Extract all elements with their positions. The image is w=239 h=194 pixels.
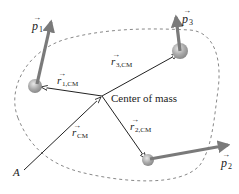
svg-text:p: p — [31, 19, 38, 33]
r-cm-label: → r CM — [72, 121, 89, 140]
diagram-canvas: Center of mass A → r CM → r 1,CM → r 3,C… — [0, 0, 239, 194]
r1-cm-vector — [41, 87, 102, 96]
p3-label: → p 3 — [181, 6, 193, 27]
svg-text:p: p — [181, 12, 188, 26]
svg-text:1,CM: 1,CM — [62, 80, 79, 88]
svg-text:CM: CM — [77, 132, 89, 140]
r1-cm-label: → r 1,CM — [57, 69, 79, 88]
p2-label: → p 2 — [220, 150, 232, 171]
center-of-mass-diagram: Center of mass A → r CM → r 1,CM → r 3,C… — [0, 0, 239, 194]
r3-cm-label: → r 3,CM — [111, 50, 133, 69]
svg-text:3,CM: 3,CM — [116, 61, 133, 69]
p1-label: → p 1 — [31, 13, 43, 34]
r2-cm-label: → r 2,CM — [130, 115, 152, 134]
svg-text:p: p — [220, 156, 227, 170]
svg-text:1: 1 — [39, 25, 43, 34]
svg-text:2: 2 — [228, 162, 232, 171]
origin-label: A — [12, 166, 20, 178]
svg-text:2,CM: 2,CM — [135, 126, 152, 134]
r-cm-vector — [24, 97, 101, 170]
particle-1 — [28, 79, 42, 93]
svg-text:3: 3 — [189, 18, 193, 27]
center-of-mass-label: Center of mass — [111, 92, 177, 104]
p2-momentum-arrow — [150, 145, 228, 159]
